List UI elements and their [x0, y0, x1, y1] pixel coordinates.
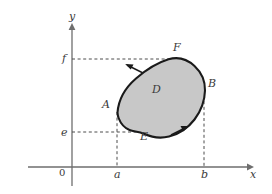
y-axis-label: y [69, 11, 75, 22]
y-tick-label-e: e [61, 127, 68, 138]
origin-label: 0 [59, 168, 65, 178]
orientation-arrow-upper-left [125, 64, 143, 73]
curve-label-f: F [173, 42, 181, 53]
x-tick-label-b: b [201, 169, 208, 180]
figure-canvas: x y 0 a b e f A B D E F [0, 0, 272, 194]
region-label-d: D [152, 84, 161, 95]
region-d-boundary [118, 58, 206, 137]
x-tick-label-a: a [114, 169, 121, 180]
y-tick-label-f: f [62, 53, 66, 64]
y-axis-arrowhead [69, 23, 76, 30]
diagram-svg [0, 0, 272, 194]
curve-label-e: E [140, 131, 148, 142]
curve-label-b: B [208, 78, 216, 89]
x-axis-label: x [250, 169, 256, 180]
curve-label-a: A [102, 99, 110, 110]
y-axis [69, 23, 76, 186]
